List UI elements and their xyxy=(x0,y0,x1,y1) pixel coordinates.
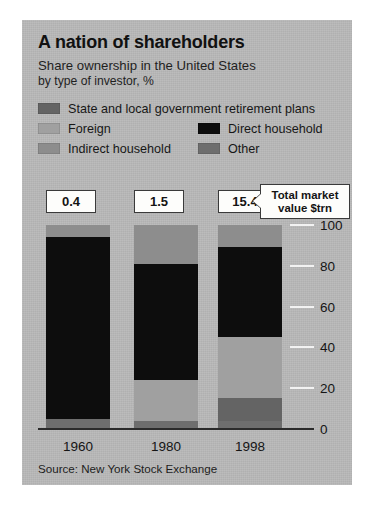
gridline-0 xyxy=(38,428,314,430)
legend-swatch-foreign xyxy=(38,123,60,134)
legend-label: Direct household xyxy=(228,122,323,136)
gridline-20 xyxy=(290,387,314,389)
bar-segment xyxy=(134,264,198,380)
market-value-1960: 0.4 xyxy=(46,190,96,213)
x-axis-label-1998: 1998 xyxy=(218,439,282,454)
legend-swatch-direct-household xyxy=(198,123,220,134)
y-axis-tick-0: 0 xyxy=(320,422,328,437)
x-axis-label-1960: 1960 xyxy=(46,439,110,454)
legend-label: Foreign xyxy=(68,122,111,136)
chart-panel: A nation of shareholders Share ownership… xyxy=(22,20,352,485)
subtitle-line-2: by type of investor, % xyxy=(38,74,154,88)
bar-1998[interactable] xyxy=(218,225,282,429)
market-value-1980: 1.5 xyxy=(134,190,184,213)
legend-item-state-local[interactable]: State and local government retirement pl… xyxy=(38,100,315,117)
legend-label: State and local government retirement pl… xyxy=(68,102,315,116)
legend-label: Other xyxy=(228,142,260,156)
callout-line-1: Total market xyxy=(272,189,339,202)
bar-segment xyxy=(134,380,198,421)
legend-item-direct-household[interactable]: Direct household xyxy=(198,120,323,137)
bar-segment xyxy=(46,237,110,419)
callout-line-2: value $trn xyxy=(278,202,332,215)
legend-swatch-indirect-household xyxy=(38,143,60,154)
page-title: A nation of shareholders xyxy=(38,32,245,53)
legend-label: Indirect household xyxy=(68,142,171,156)
gridline-100 xyxy=(290,224,314,226)
bar-segment xyxy=(218,337,282,398)
source-note: Source: New York Stock Exchange xyxy=(38,462,217,475)
total-market-value-callout: Total market value $trn xyxy=(260,184,350,219)
x-axis-label-1980: 1980 xyxy=(134,439,198,454)
legend-swatch-other xyxy=(198,143,220,154)
gridline-40 xyxy=(290,346,314,348)
y-axis-tick-100: 100 xyxy=(320,218,343,233)
bar-segment xyxy=(218,247,282,337)
y-axis-tick-60: 60 xyxy=(320,299,335,314)
legend-item-indirect-household[interactable]: Indirect household xyxy=(38,140,171,157)
bar-1980[interactable] xyxy=(134,225,198,429)
stacked-bar-plot: 196019801998020406080100 xyxy=(38,225,290,429)
bar-segment xyxy=(134,225,198,264)
bar-segment xyxy=(46,225,110,237)
legend-item-foreign[interactable]: Foreign xyxy=(38,120,111,137)
bar-1960[interactable] xyxy=(46,225,110,429)
subtitle-line-1: Share ownership in the United States xyxy=(38,58,256,73)
bar-segment xyxy=(218,225,282,247)
bar-segment xyxy=(218,398,282,420)
y-axis-tick-40: 40 xyxy=(320,340,335,355)
legend-swatch-state-local xyxy=(38,103,60,114)
y-axis-tick-80: 80 xyxy=(320,258,335,273)
gridline-60 xyxy=(290,306,314,308)
gridline-80 xyxy=(290,265,314,267)
y-axis-tick-20: 20 xyxy=(320,381,335,396)
legend-item-other[interactable]: Other xyxy=(198,140,260,157)
callout-arrow-icon xyxy=(253,194,261,208)
